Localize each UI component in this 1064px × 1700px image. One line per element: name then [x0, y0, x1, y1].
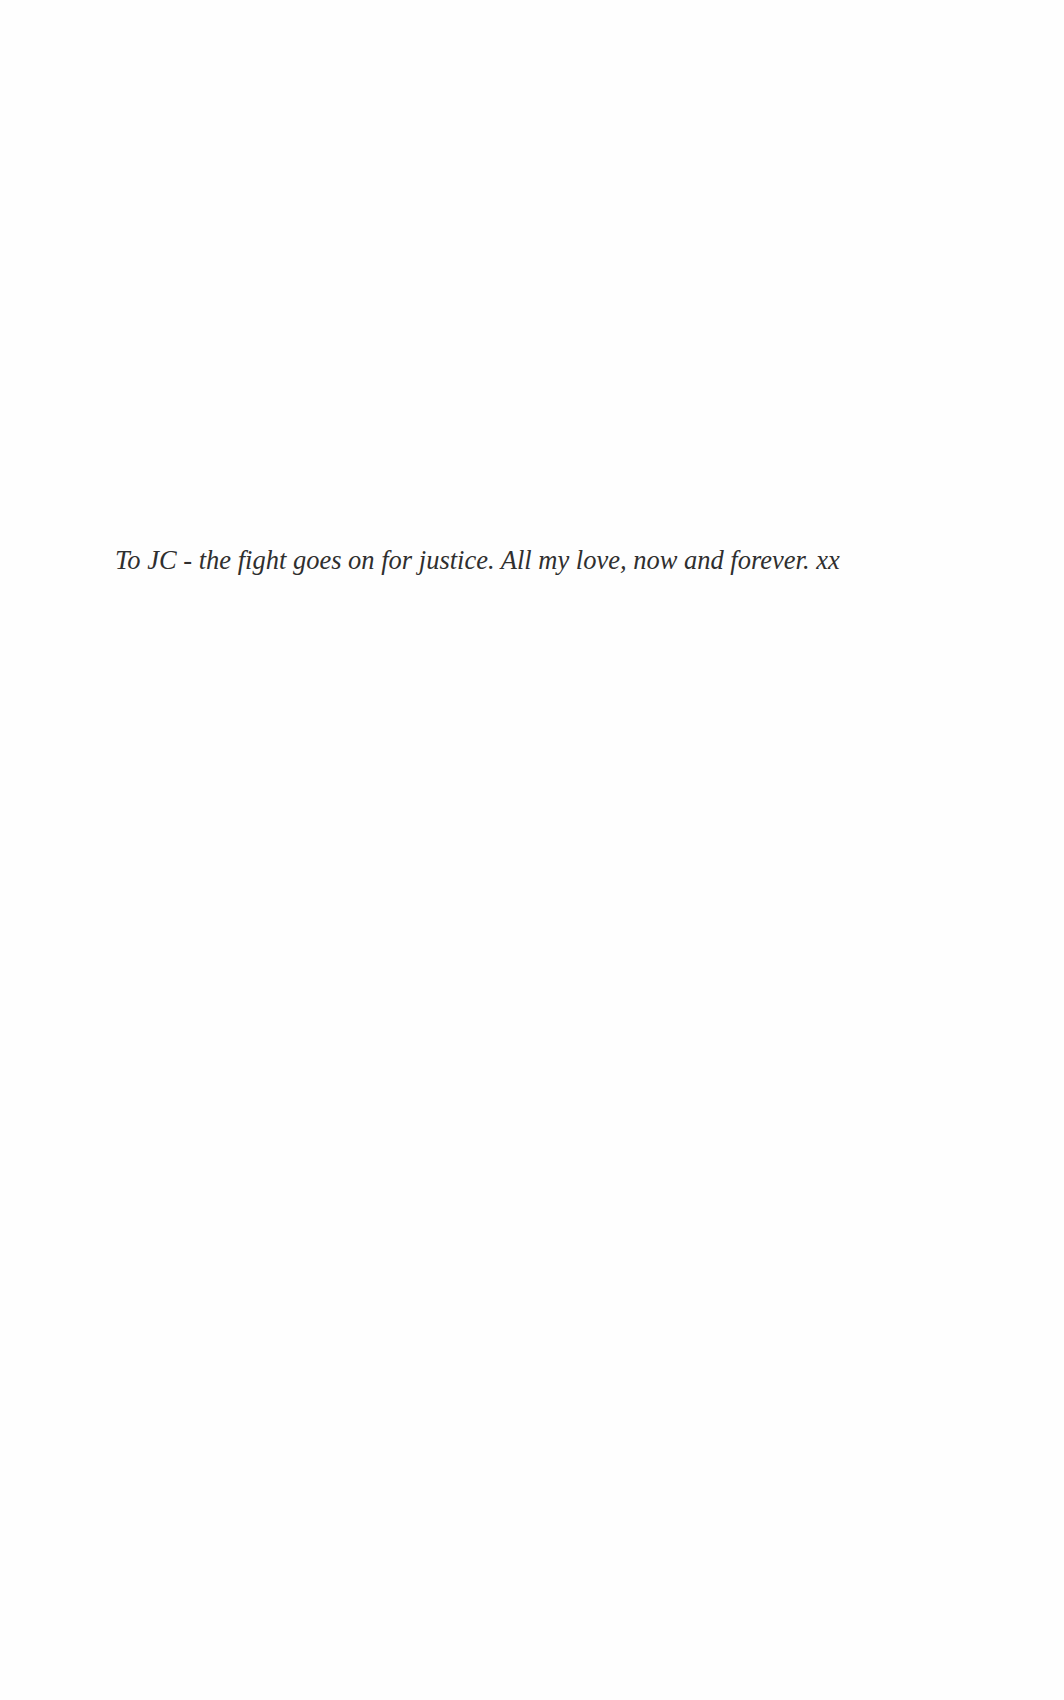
book-page: To JC - the fight goes on for justice. A…	[0, 0, 1064, 1700]
dedication-text: To JC - the fight goes on for justice. A…	[115, 543, 840, 577]
